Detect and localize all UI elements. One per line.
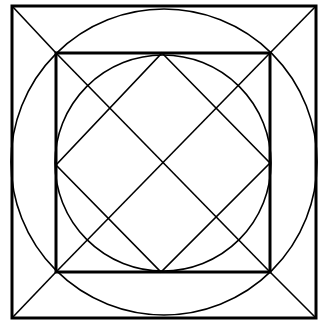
corner-diagonal-top-left xyxy=(12,6,56,53)
corner-diagonal-bottom-right xyxy=(270,272,316,318)
corner-diagonal-top-right xyxy=(270,6,316,53)
geometric-diagram xyxy=(0,0,325,331)
corner-diagonal-bottom-left xyxy=(12,272,56,318)
